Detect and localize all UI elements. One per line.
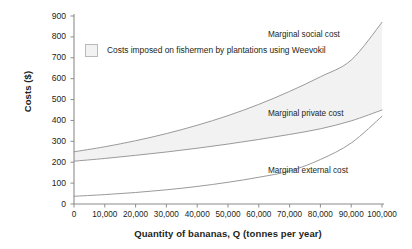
- y-tick-label: 700: [32, 53, 66, 62]
- x-tick-label: 70,000: [277, 211, 302, 219]
- y-axis-title: Costs ($): [22, 32, 33, 152]
- x-tick-label: 10,000: [92, 211, 117, 219]
- x-tick-label: 60,000: [246, 211, 271, 219]
- x-tick-label: 90,000: [339, 211, 364, 219]
- curve-label-marginal-private-cost: Marginal private cost: [268, 110, 344, 118]
- y-tick-label: 100: [32, 179, 66, 188]
- x-tick-label: 100,000: [367, 211, 397, 219]
- x-tick-label: 40,000: [185, 211, 210, 219]
- x-tick-label: 80,000: [308, 211, 333, 219]
- x-axis-title: Quantity of bananas, Q (tonnes per year): [74, 228, 382, 239]
- y-tick-label: 400: [32, 116, 66, 125]
- x-tick-label: 30,000: [154, 211, 179, 219]
- x-tick-label: 20,000: [123, 211, 148, 219]
- y-tick-label: 500: [32, 95, 66, 104]
- chart-container: Costs ($) Quantity of bananas, Q (tonnes…: [0, 0, 412, 249]
- x-tick-label: 50,000: [215, 211, 240, 219]
- y-tick-label: 600: [32, 74, 66, 83]
- y-tick-label: 900: [32, 12, 66, 21]
- curve-label-marginal-external-cost: Marginal external cost: [268, 167, 348, 175]
- curve-label-marginal-social-cost: Marginal social cost: [268, 31, 340, 39]
- shaded-area-swatch: [85, 44, 98, 57]
- y-tick-label: 200: [32, 158, 66, 167]
- y-tick-label: 300: [32, 137, 66, 146]
- y-tick-label: 0: [32, 200, 66, 209]
- x-tick-label: 0: [72, 211, 77, 219]
- y-tick-label: 800: [32, 32, 66, 41]
- legend-label: Costs imposed on fishermen by plantation…: [107, 46, 326, 54]
- shaded-external-cost-region: [74, 22, 382, 161]
